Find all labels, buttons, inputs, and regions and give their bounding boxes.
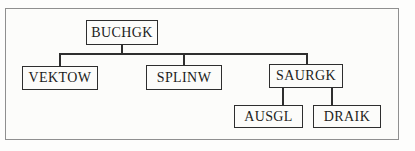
connector-buchgk-saurgk — [306, 53, 308, 64]
node-vektow-label: VEKTOW — [29, 70, 92, 86]
node-splinw: SPLINW — [146, 65, 222, 90]
node-buchgk: BUCHGK — [86, 20, 158, 45]
connector-buchgk-vektow — [59, 53, 61, 66]
node-draik: DRAIK — [313, 105, 381, 128]
node-vektow: VEKTOW — [22, 66, 98, 90]
node-ausgl: AUSGL — [234, 105, 303, 128]
node-ausgl-label: AUSGL — [244, 109, 293, 125]
connector-saurgk-draik — [331, 88, 333, 105]
diagram-canvas: BUCHGK VEKTOW SPLINW SAURGK AUSGL DRAIK — [0, 0, 415, 151]
connector-saurgk-ausgl — [282, 88, 284, 105]
node-buchgk-label: BUCHGK — [91, 25, 153, 41]
node-splinw-label: SPLINW — [157, 70, 212, 86]
connector-buchgk-splinw — [183, 53, 185, 65]
node-saurgk-label: SAURGK — [276, 68, 336, 84]
node-saurgk: SAURGK — [269, 64, 343, 88]
node-draik-label: DRAIK — [324, 109, 370, 125]
